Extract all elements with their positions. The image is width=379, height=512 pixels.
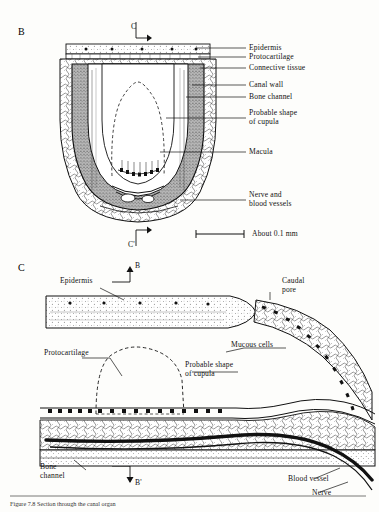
figure-artwork <box>0 0 379 512</box>
label-nerve-c: Nerve <box>312 488 331 497</box>
label-macula-b: Macula <box>249 147 273 156</box>
label-epidermis-b: Epidermis <box>249 43 282 52</box>
section-marker-c-top: C <box>131 22 136 31</box>
figure-caption: Figure 7.8 Section through the canal org… <box>10 500 116 508</box>
label-probable-shape-of-cupula-c: Probable shape of cupula <box>185 360 233 378</box>
label-blood-vessel-c: Blood vessel <box>288 474 329 483</box>
figure-page: B C C' Epidermis Protocartilage Connecti… <box>0 0 379 512</box>
panel-b-letter: B <box>18 26 25 37</box>
label-nerve-and-blood-vessels-b: Nerve and blood vessels <box>249 190 292 208</box>
label-canal-wall-b: Canal wall <box>249 80 283 89</box>
label-bone-channel-b: Bone channel <box>249 92 292 101</box>
section-marker-b-top: B <box>135 261 140 270</box>
section-marker-c-bottom: C' <box>128 240 135 249</box>
scale-label: About 0.1 mm <box>252 229 298 238</box>
label-probable-shape-of-cupula-b: Probable shape of cupula <box>249 108 297 126</box>
label-bone-channel-c: Bone channel <box>40 462 65 480</box>
label-epidermis-c: Epidermis <box>60 276 93 285</box>
label-mucous-cells-c: Mucous cells <box>231 340 273 349</box>
label-protocartilage-b: Protocartilage <box>249 52 294 61</box>
panel-c-letter: C <box>18 262 25 273</box>
section-marker-b-bottom: B' <box>135 478 142 487</box>
label-connective-tissue-b: Connective tissue <box>249 63 305 72</box>
label-caudal-pore-c: Caudal pore <box>282 276 304 294</box>
label-protocartilage-c: Protocartilage <box>44 348 89 357</box>
